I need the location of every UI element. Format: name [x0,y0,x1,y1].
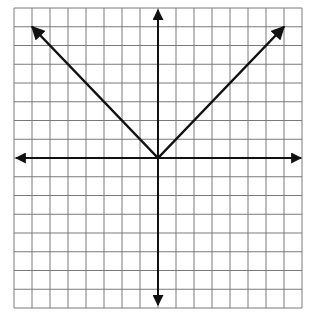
coordinate-plane [0,0,316,321]
